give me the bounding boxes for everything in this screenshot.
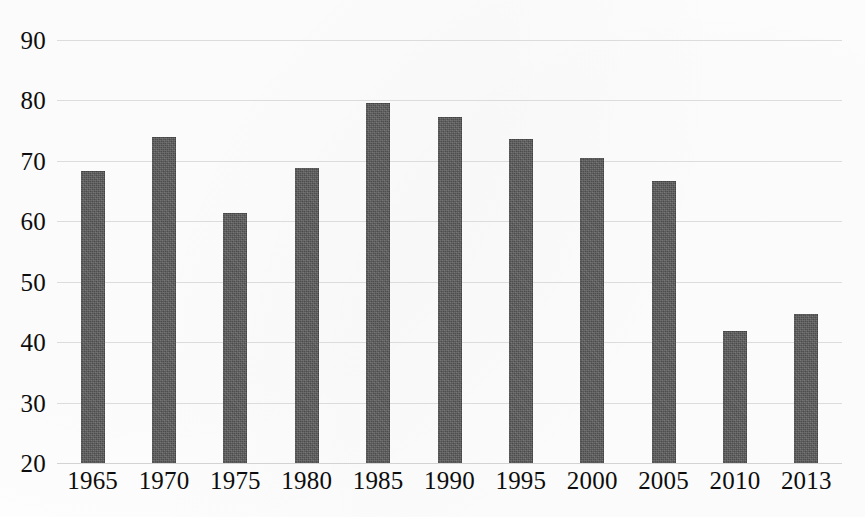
y-tick-label: 30	[20, 390, 46, 415]
bar-1965	[81, 171, 105, 463]
x-tick-label: 1965	[67, 468, 118, 493]
bar-1980	[295, 168, 319, 463]
y-tick-label: 90	[20, 28, 46, 53]
y-tick-label: 80	[20, 88, 46, 113]
x-tick-label: 2010	[710, 468, 761, 493]
x-axis-labels: 1965197019751980198519901995200020052010…	[57, 468, 842, 510]
y-axis-labels: 2030405060708090	[0, 0, 57, 517]
gridline-20	[57, 463, 842, 464]
y-tick-label: 20	[20, 451, 46, 476]
bar-2010	[723, 331, 747, 463]
y-tick-label: 40	[20, 330, 46, 355]
x-tick-label: 1975	[210, 468, 261, 493]
x-tick-label: 2013	[781, 468, 832, 493]
bar-series	[57, 40, 842, 463]
bar-1995	[509, 139, 533, 464]
bar-1970	[152, 137, 176, 463]
x-tick-label: 1990	[424, 468, 475, 493]
y-tick-label: 70	[20, 148, 46, 173]
x-tick-label: 2000	[567, 468, 618, 493]
bar-2000	[580, 158, 604, 463]
bar-chart-figure: 2030405060708090 19651970197519801985199…	[0, 0, 865, 517]
bar-1985	[366, 103, 390, 463]
x-tick-label: 1970	[139, 468, 190, 493]
bar-2013	[794, 314, 818, 463]
bar-2005	[652, 181, 676, 463]
x-tick-label: 1985	[353, 468, 404, 493]
plot-area	[57, 40, 842, 463]
x-tick-label: 1995	[495, 468, 546, 493]
x-tick-label: 1980	[281, 468, 332, 493]
bar-1990	[438, 117, 462, 463]
x-tick-label: 2005	[638, 468, 689, 493]
y-tick-label: 50	[20, 269, 46, 294]
bar-1975	[223, 213, 247, 463]
y-tick-label: 60	[20, 209, 46, 234]
